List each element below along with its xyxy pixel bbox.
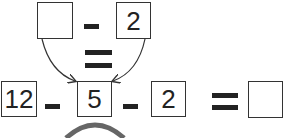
- top-empty-box[interactable]: [37, 2, 73, 39]
- partial-circle: [66, 125, 124, 138]
- bottom-minus-sign-2: [123, 104, 138, 109]
- bottom-box-2[interactable]: 2: [151, 81, 186, 117]
- arrow-right-to-middle: [113, 39, 145, 81]
- arrow-left-to-middle: [42, 39, 75, 81]
- middle-equals-sign: [85, 50, 112, 69]
- bottom-minus-sign-1: [45, 104, 60, 109]
- bottom-box-5[interactable]: 5: [77, 81, 112, 117]
- top-box-2[interactable]: 2: [116, 2, 151, 39]
- result-empty-box[interactable]: [248, 81, 283, 118]
- bottom-equals-sign: [212, 93, 238, 110]
- top-minus-sign: [84, 24, 99, 29]
- bottom-box-12[interactable]: 12: [1, 81, 37, 117]
